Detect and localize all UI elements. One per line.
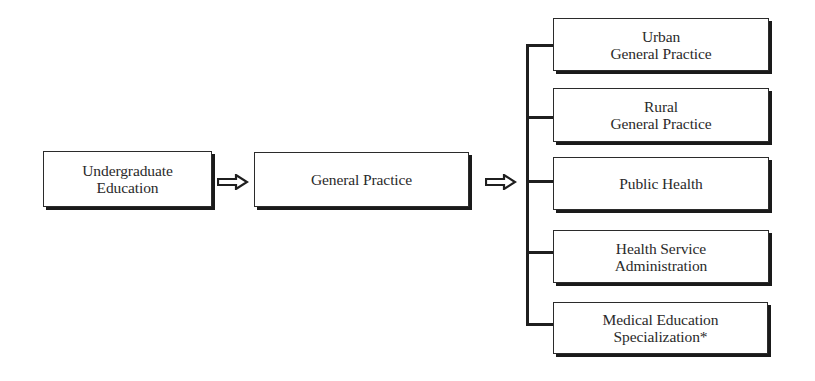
- node-label: Urban General Practice: [610, 28, 711, 62]
- connector-health-service-admin: [526, 251, 553, 254]
- node-undergraduate-education: Undergraduate Education: [43, 151, 212, 207]
- node-label: General Practice: [311, 171, 412, 188]
- node-urban-general-practice: Urban General Practice: [553, 18, 769, 71]
- connector-public-health: [526, 180, 553, 183]
- connector-urban: [526, 44, 553, 47]
- node-health-service-administration: Health Service Administration: [553, 230, 769, 283]
- node-label: Public Health: [619, 175, 703, 192]
- node-rural-general-practice: Rural General Practice: [553, 88, 769, 142]
- node-label: Medical Education Specialization*: [603, 311, 719, 345]
- node-label: Rural General Practice: [610, 98, 711, 132]
- bracket-vertical-line: [526, 44, 529, 326]
- hollow-right-arrow-icon: [217, 174, 249, 190]
- node-label: Undergraduate Education: [82, 162, 173, 196]
- hollow-right-arrow-icon: [485, 174, 517, 190]
- node-medical-education-specialization: Medical Education Specialization*: [553, 302, 768, 354]
- connector-rural: [526, 116, 553, 119]
- node-public-health: Public Health: [553, 157, 769, 210]
- node-label: Health Service Administration: [615, 240, 707, 274]
- node-general-practice: General Practice: [254, 152, 469, 207]
- connector-medical-education: [526, 323, 553, 326]
